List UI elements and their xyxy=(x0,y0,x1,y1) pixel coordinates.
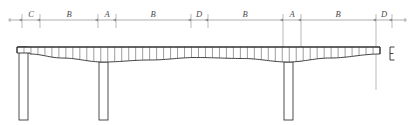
pier-center-right xyxy=(284,62,293,120)
drawing-canvas: CBABDBABD xyxy=(0,0,415,125)
dimension-label-b-3: B xyxy=(150,9,155,19)
dimension-label-a-6: A xyxy=(288,9,295,19)
dimension-label-b-1: B xyxy=(66,9,71,19)
dimension-label-c-0: C xyxy=(28,9,34,19)
dimension-label-d-4: D xyxy=(195,9,203,19)
right-end-bracket xyxy=(390,47,395,60)
pier-left-abutment xyxy=(19,47,28,120)
dimension-arrow-0 xyxy=(19,19,22,22)
dimension-arrow-7 xyxy=(298,19,301,22)
dimension-arrow-6 xyxy=(280,19,283,22)
dimension-arrow-3 xyxy=(113,19,116,22)
dimension-arrow-2 xyxy=(95,19,98,22)
dimension-arrow-5 xyxy=(205,19,208,22)
dimension-arrow-9 xyxy=(389,19,392,22)
girder-group xyxy=(17,47,380,62)
dimension-arrow-4 xyxy=(188,19,191,22)
dimension-arrow-8 xyxy=(373,19,376,22)
dimension-label-d-8: D xyxy=(380,9,388,19)
bridge-elevation-drawing: CBABDBABD xyxy=(0,0,415,125)
dimension-arrow-1 xyxy=(37,19,40,22)
dimension-label-b-5: B xyxy=(242,9,247,19)
pier-center-left xyxy=(99,62,108,120)
dimension-label-b-7: B xyxy=(335,9,340,19)
span-dimension-chain xyxy=(8,18,407,22)
dimension-label-a-2: A xyxy=(103,9,110,19)
